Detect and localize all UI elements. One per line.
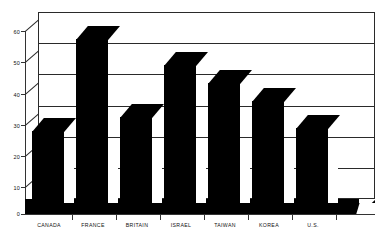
y-tick-label-60: 60 bbox=[4, 29, 20, 35]
x-axis-line bbox=[25, 214, 375, 215]
x-tick-label-france: FRANCE bbox=[72, 222, 114, 229]
x-tick-label-canada: CANADA bbox=[28, 222, 70, 229]
bar-gap-1 bbox=[64, 160, 74, 205]
bar-canada bbox=[32, 131, 64, 203]
bar-chart: 60 50 40 30 20 10 0 bbox=[0, 0, 382, 245]
bar-gap-2 bbox=[108, 160, 118, 205]
x-tick-label-taiwan: TAIWAN bbox=[204, 222, 246, 229]
y-tick-label-20: 20 bbox=[4, 154, 20, 160]
plot-floor-front bbox=[29, 203, 369, 214]
bar-gap-7 bbox=[328, 160, 338, 205]
bar-gap-6 bbox=[284, 160, 294, 205]
bar-us bbox=[296, 128, 328, 203]
x-tick-mark-5 bbox=[248, 215, 249, 220]
x-tick-mark-2 bbox=[116, 215, 117, 220]
bar-gap-5 bbox=[240, 160, 250, 205]
x-tick-mark-6 bbox=[292, 215, 293, 220]
bar-gap-3 bbox=[152, 160, 162, 205]
x-tick-mark-1 bbox=[72, 215, 73, 220]
y-tick-label-50: 50 bbox=[4, 60, 20, 66]
bar-gap-4 bbox=[196, 160, 206, 205]
x-tick-label-israel: ISRAEL bbox=[160, 222, 202, 229]
y-tick-label-30: 30 bbox=[4, 123, 20, 129]
bar-france bbox=[76, 39, 108, 203]
x-tick-label-korea: KOREA bbox=[248, 222, 290, 229]
y-tick-label-0: 0 bbox=[4, 211, 20, 217]
bar-israel bbox=[164, 65, 196, 203]
bar-taiwan bbox=[208, 83, 240, 203]
x-tick-mark-3 bbox=[160, 215, 161, 220]
y-tick-label-10: 10 bbox=[4, 185, 20, 191]
x-tick-mark-4 bbox=[204, 215, 205, 220]
x-tick-label-us: U.S. bbox=[292, 222, 334, 229]
bar-korea bbox=[252, 101, 284, 203]
y-tick-label-40: 40 bbox=[4, 92, 20, 98]
bar-britain bbox=[120, 117, 152, 203]
x-tick-mark-7 bbox=[336, 215, 337, 220]
x-tick-label-britain: BRITAIN bbox=[116, 222, 158, 229]
